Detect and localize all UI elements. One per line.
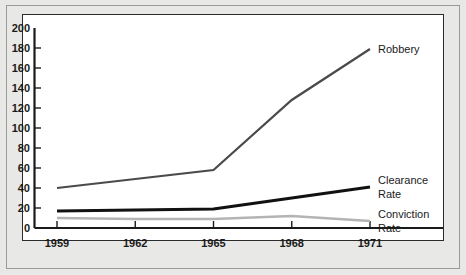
series-label-clearance-rate: Rate (378, 188, 401, 200)
x-tick-label: 1959 (45, 237, 69, 249)
series-line-clearance-rate (57, 187, 370, 211)
x-tick-label: 1971 (358, 237, 382, 249)
y-tick-label: 100 (12, 122, 30, 134)
series-line-conviction-rate (57, 216, 370, 221)
y-tick-label: 60 (18, 162, 30, 174)
y-axis-tick-labels: 020406080100120140160180200 (12, 22, 30, 234)
chart-figure: 020406080100120140160180200 195919621965… (0, 0, 466, 275)
series-label-clearance-rate: Clearance (378, 174, 428, 186)
y-tick-label: 80 (18, 142, 30, 154)
y-tick-label: 160 (12, 62, 30, 74)
y-tick-label: 120 (12, 102, 30, 114)
x-tick-label: 1968 (280, 237, 304, 249)
y-tick-label: 20 (18, 202, 30, 214)
y-tick-label: 140 (12, 82, 30, 94)
y-tick-label: 40 (18, 182, 30, 194)
series-line-robbery (57, 49, 370, 188)
series-lines (57, 49, 370, 221)
series-label-conviction-rate: Conviction (378, 208, 429, 220)
line-chart: 020406080100120140160180200 195919621965… (0, 0, 466, 275)
series-labels: RobberyClearanceRateConvictionRate (378, 43, 429, 234)
series-label-robbery: Robbery (378, 43, 420, 55)
y-tick-label: 200 (12, 22, 30, 34)
x-axis-tick-labels: 19591962196519681971 (45, 237, 382, 249)
x-tick-label: 1965 (201, 237, 225, 249)
x-tick-label: 1962 (123, 237, 147, 249)
y-tick-label: 180 (12, 42, 30, 54)
series-label-conviction-rate: Rate (378, 222, 401, 234)
y-tick-label: 0 (24, 222, 30, 234)
